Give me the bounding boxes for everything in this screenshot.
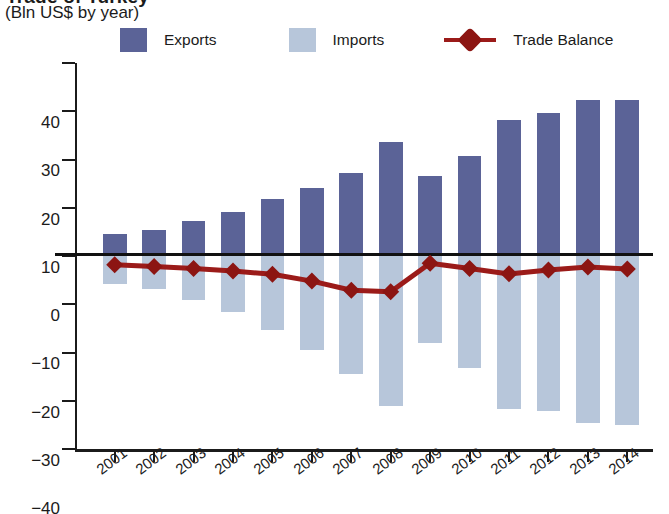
chart-legend: Exports Imports Trade Balance xyxy=(120,27,614,53)
trade-balance-point xyxy=(185,260,202,277)
trade-balance-point xyxy=(343,282,360,299)
y-tick-label: 30 xyxy=(41,161,60,181)
plot-area xyxy=(75,60,653,450)
y-tick-label: −10 xyxy=(31,354,60,374)
legend-item-exports[interactable]: Exports xyxy=(120,28,217,52)
chart-container: Trade of Turkey (Bln US$ by year) Export… xyxy=(0,0,669,514)
y-tick-label: 0 xyxy=(51,306,60,326)
legend-swatch-trade-balance xyxy=(444,28,496,52)
trade-balance-point xyxy=(579,259,596,276)
y-tick-label: −40 xyxy=(31,499,60,514)
y-tick-label: −20 xyxy=(31,403,60,423)
y-tick xyxy=(62,207,75,209)
trade-balance-point xyxy=(501,265,518,282)
trade-balance-point xyxy=(225,262,242,279)
y-tick xyxy=(62,400,75,402)
chart-subtitle: (Bln US$ by year) xyxy=(5,3,139,23)
trade-balance-point xyxy=(540,261,557,278)
trade-balance-point xyxy=(264,266,281,283)
legend-label-exports: Exports xyxy=(164,31,217,49)
legend-item-imports[interactable]: Imports xyxy=(289,28,385,52)
y-tick-label: 20 xyxy=(41,210,60,230)
y-tick xyxy=(62,448,75,450)
y-tick-label: −30 xyxy=(31,451,60,471)
trade-balance-line-layer xyxy=(75,60,653,452)
y-tick xyxy=(62,352,75,354)
y-tick xyxy=(62,62,75,64)
trade-balance-point xyxy=(619,261,636,278)
y-tick xyxy=(62,110,75,112)
legend-item-trade-balance[interactable]: Trade Balance xyxy=(444,28,613,52)
legend-swatch-imports xyxy=(289,28,316,52)
trade-balance-point xyxy=(303,273,320,290)
y-tick xyxy=(62,303,75,305)
legend-swatch-exports xyxy=(120,28,147,52)
trade-balance-point xyxy=(461,260,478,277)
y-tick xyxy=(62,159,75,161)
trade-balance-point xyxy=(106,256,123,273)
y-tick-label: 10 xyxy=(41,258,60,278)
y-axis-labels: 403020100−10−20−30−40 xyxy=(0,60,60,450)
trade-balance-point xyxy=(146,258,163,275)
legend-label-trade-balance: Trade Balance xyxy=(513,31,613,49)
y-tick-label: 40 xyxy=(41,113,60,133)
legend-label-imports: Imports xyxy=(333,31,385,49)
